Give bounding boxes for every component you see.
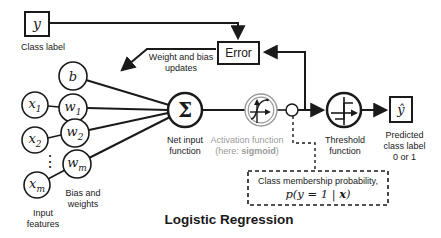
edge-w2-sum — [89, 113, 168, 130]
figure-title: Logistic Regression — [149, 212, 309, 227]
wm-node-label: wm — [67, 155, 87, 173]
output-caption: Predicted class label 0 or 1 — [368, 130, 441, 163]
features-caption: Input features — [12, 208, 74, 230]
probability-note-line1: Class membership probability, — [250, 176, 386, 187]
probability-note-math: p(y = 1 | x) — [250, 187, 386, 201]
edge-x2-w2 — [48, 135, 61, 138]
figure-logistic-regression: y Class label Error Weight and bias upda… — [0, 0, 441, 238]
class-label-caption: Class label — [21, 42, 65, 53]
output-symbol: ŷ — [397, 102, 404, 117]
feedback-caption: Weight and bias updates — [136, 52, 226, 74]
activation-caption: Activation function(here: sigmoid) — [197, 135, 297, 157]
edge-x1-w1 — [48, 106, 59, 107]
vertical-ellipsis: ⋮ — [42, 152, 58, 171]
class-label-value: y — [33, 16, 41, 32]
activation-circle-outer — [245, 94, 277, 126]
w1-node-label: w1 — [65, 99, 82, 117]
xm-node-label: xm — [29, 176, 45, 194]
x2-node-label: x2 — [28, 131, 41, 149]
bias-node-label: b — [69, 69, 77, 84]
x1-node-label: x1 — [28, 96, 41, 114]
junction-circle — [286, 104, 298, 116]
edge-xm-wm — [48, 170, 65, 179]
edge-b-sum — [86, 80, 169, 105]
w2-node-label: w2 — [67, 124, 84, 142]
weights-caption: Bias and weights — [52, 188, 114, 210]
edge-y-to-error — [49, 23, 238, 38]
edge-w1-sum — [87, 108, 168, 110]
sum-symbol: Σ — [178, 98, 192, 122]
